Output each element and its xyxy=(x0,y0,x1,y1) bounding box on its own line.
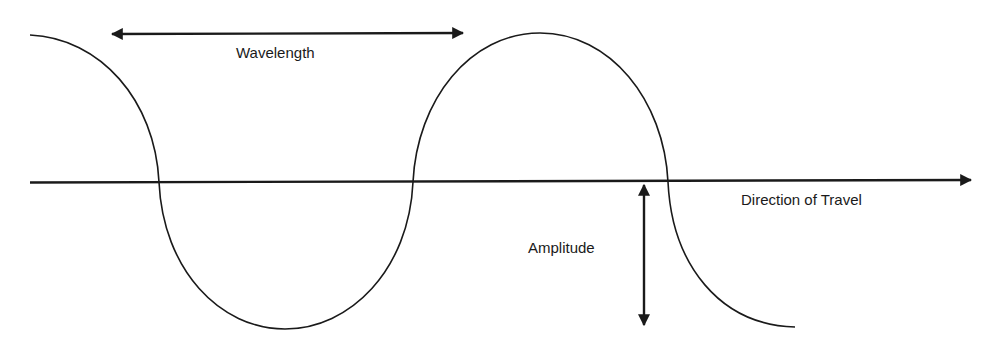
direction-axis-arrow xyxy=(30,180,971,183)
amplitude-label: Amplitude xyxy=(528,240,595,255)
wave-diagram: Wavelength Direction of Travel Amplitude xyxy=(0,0,996,352)
wavelength-arrow xyxy=(112,33,463,34)
wavelength-label: Wavelength xyxy=(236,45,315,60)
wave-diagram-svg xyxy=(0,0,996,352)
direction-of-travel-label: Direction of Travel xyxy=(741,192,862,207)
